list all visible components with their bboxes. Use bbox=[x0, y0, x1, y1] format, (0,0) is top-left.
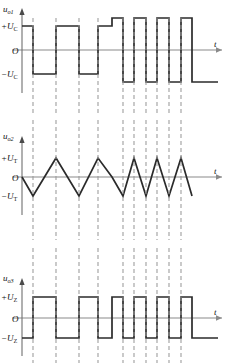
panel-bottom: uo3 t O +UZ −UZ bbox=[1, 273, 222, 356]
neg-level-label-middle: −UT bbox=[1, 191, 18, 202]
pos-level-label-top: +UC bbox=[1, 21, 18, 32]
neg-level-label-top: −UC bbox=[1, 69, 18, 80]
x-axis-label-middle: t bbox=[214, 166, 217, 176]
signal-label-top: uo1 bbox=[3, 4, 14, 15]
x-axis-arrow-top bbox=[216, 47, 222, 52]
x-axis-arrow-middle bbox=[216, 174, 222, 179]
y-axis-arrow-bottom bbox=[19, 278, 24, 285]
pos-level-label-middle: +UT bbox=[1, 153, 18, 164]
neg-level-label-bottom: −UZ bbox=[1, 333, 18, 344]
origin-label-middle: O bbox=[12, 173, 19, 183]
signal-label-middle: uo2 bbox=[3, 131, 14, 142]
y-axis-arrow-middle bbox=[19, 136, 24, 143]
x-axis-label-bottom: t bbox=[214, 307, 217, 317]
signal-label-bottom: uo3 bbox=[3, 273, 14, 284]
origin-label-top: O bbox=[12, 46, 19, 56]
panel-middle: uo2 t O +UT −UT bbox=[1, 131, 222, 215]
panel-top: uo1 t O +UC −UC bbox=[1, 4, 222, 93]
x-axis-arrow-bottom bbox=[216, 315, 222, 320]
pos-level-label-bottom: +UZ bbox=[1, 292, 18, 303]
waveform-figure: uo1 t O +UC −UC uo2 t O +UT −UT bbox=[0, 0, 234, 363]
origin-label-bottom: O bbox=[12, 314, 19, 324]
x-axis-label-top: t bbox=[214, 39, 217, 49]
y-axis-arrow-top bbox=[19, 8, 24, 15]
